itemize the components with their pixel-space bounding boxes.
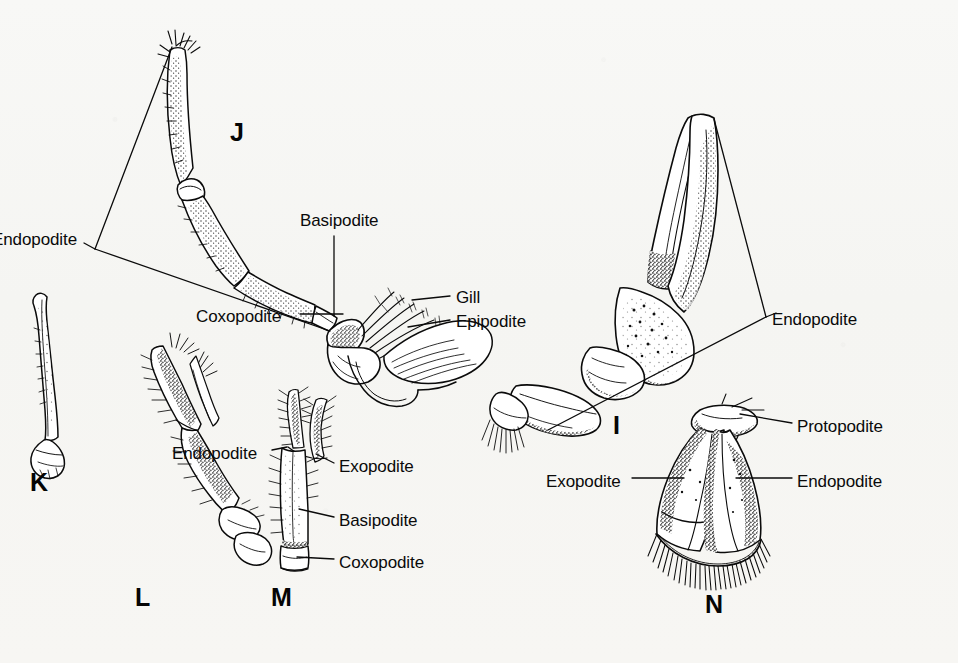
label-endopodite-j: Endopodite [0, 231, 77, 248]
specimen-i-cheliped [482, 114, 776, 453]
figure-letter-j: J [230, 120, 244, 145]
figure-letter-i: I [613, 413, 620, 438]
label-basipodite-m: Basipodite [339, 512, 417, 529]
specimen-m-basipodite-shading [283, 452, 300, 543]
label-endopodite-i: Endopodite [772, 311, 857, 328]
label-coxopodite-m: Coxopodite [339, 554, 424, 571]
leader-endopodite-j [84, 243, 95, 249]
plate-artwork [0, 0, 958, 663]
label-endopodite-n: Endopodite [797, 473, 882, 490]
specimen-l-terminal-segment-b [234, 533, 271, 566]
leader-gill-j [412, 296, 450, 300]
label-exopodite-n: Exopodite [546, 473, 621, 490]
label-epipodite-j: Epipodite [456, 313, 526, 330]
figure-letter-l: L [135, 585, 150, 610]
figure-letter-m: M [271, 585, 292, 610]
label-coxopodite-j: Coxopodite [196, 308, 281, 325]
specimen-j-carpus-shading [188, 198, 245, 283]
figure-letter-n: N [705, 592, 723, 617]
figure-letter-k: K [30, 470, 48, 495]
label-protopodite-n: Protopodite [797, 418, 883, 435]
label-gill-j: Gill [456, 289, 480, 306]
specimen-j-walking-leg [84, 30, 492, 406]
illustration-plate: Endopodite Basipodite Coxopodite Gill Ep… [0, 0, 958, 663]
label-exopodite-m: Exopodite [339, 458, 414, 475]
label-endopodite-m: Endopodite [172, 445, 257, 462]
bracket-endopodite-j [95, 47, 330, 331]
specimen-m-swimmeret [269, 387, 336, 571]
label-basipodite-j: Basipodite [300, 212, 378, 229]
specimen-n-uropod [632, 394, 792, 590]
specimen-k-slender-appendage [31, 293, 65, 479]
